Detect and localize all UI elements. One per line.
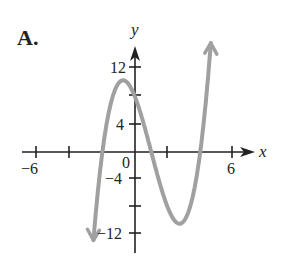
x-tick-label-neg6: −6	[21, 160, 38, 177]
y-tick-label-neg12: −12	[97, 225, 122, 242]
y-tick-label-12: 12	[110, 59, 126, 76]
x-tick-label-6: 6	[227, 160, 235, 177]
y-tick-label-4: 4	[116, 116, 124, 133]
x-axis	[22, 146, 245, 158]
x-axis-label: x	[258, 142, 267, 161]
panel-label: A.	[17, 25, 38, 50]
origin-label: 0	[122, 154, 130, 171]
y-tick-label-neg4: −4	[105, 170, 122, 187]
cubic-function-graph: A. y x −6 6 0 12 4 −4 −12	[0, 0, 287, 256]
y-axis-label: y	[129, 20, 139, 39]
